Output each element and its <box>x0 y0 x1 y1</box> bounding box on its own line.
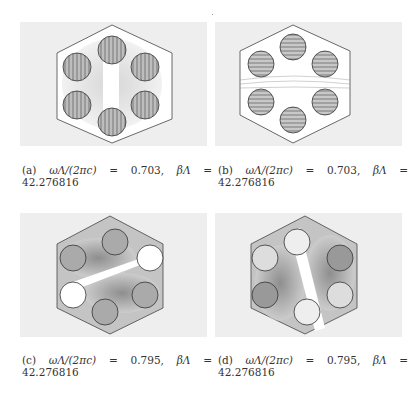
hexagon-field-plot-a <box>20 22 207 146</box>
subfigure-a-caption: (a)ωΛ/(2πc)=0.703,βΛ= 42.276816 <box>22 164 212 188</box>
caption-label: (c) <box>22 354 36 366</box>
caption-freq-value: 0.795, <box>131 354 164 366</box>
subfigure-b-plot <box>215 22 402 146</box>
equals: = <box>399 164 408 176</box>
hexagon-field-plot-c <box>20 213 207 337</box>
equals: = <box>109 354 118 366</box>
equals: = <box>203 164 212 176</box>
caption-freq-value: 0.795, <box>327 354 360 366</box>
caption-freq-expr: ωΛ/(2πc) <box>49 164 96 176</box>
caption-label: (d) <box>218 354 233 366</box>
stray-mark <box>212 14 213 15</box>
caption-beta-value: 42.276816 <box>22 366 212 378</box>
subfigure-b-caption: (b)ωΛ/(2πc)=0.703,βΛ= 42.276816 <box>218 164 408 188</box>
subfigure-c-caption: (c)ωΛ/(2πc)=0.795,βΛ= 42.276816 <box>22 354 212 378</box>
caption-freq-expr: ωΛ/(2πc) <box>49 354 96 366</box>
caption-beta-value: 42.276816 <box>22 176 212 188</box>
subfigure-d-plot <box>215 213 402 337</box>
caption-freq-expr: ωΛ/(2πc) <box>246 354 293 366</box>
subfigure-a-plot <box>20 22 207 146</box>
subfigure-d-caption: (d)ωΛ/(2πc)=0.795,βΛ= 42.276816 <box>218 354 408 378</box>
caption-beta-value: 42.276816 <box>218 366 408 378</box>
caption-freq-value: 0.703, <box>131 164 164 176</box>
equals: = <box>203 354 212 366</box>
caption-label: (b) <box>218 164 233 176</box>
caption-label: (a) <box>22 164 36 176</box>
equals: = <box>399 354 408 366</box>
caption-beta-expr: βΛ <box>373 354 387 366</box>
caption-beta-expr: βΛ <box>177 164 191 176</box>
caption-beta-value: 42.276816 <box>218 176 408 188</box>
equals: = <box>305 164 314 176</box>
caption-freq-value: 0.703, <box>327 164 360 176</box>
hexagon-field-plot-b <box>215 22 402 146</box>
caption-beta-expr: βΛ <box>177 354 191 366</box>
caption-beta-expr: βΛ <box>373 164 387 176</box>
subfigure-c-plot <box>20 213 207 337</box>
hexagon-field-plot-d <box>215 213 402 337</box>
equals: = <box>305 354 314 366</box>
equals: = <box>109 164 118 176</box>
caption-freq-expr: ωΛ/(2πc) <box>246 164 293 176</box>
